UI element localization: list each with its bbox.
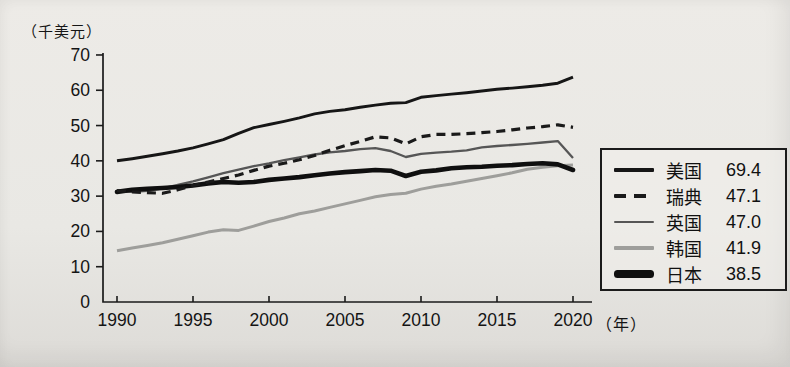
series-line-usa <box>117 77 573 161</box>
y-tick-label: 20 <box>71 221 91 241</box>
legend-label-korea: 韩国 <box>666 235 724 261</box>
legend-line-sample-japan <box>614 270 654 277</box>
y-tick-label: 50 <box>71 116 91 136</box>
y-tick-label: 40 <box>71 151 91 171</box>
x-tick-label: 2000 <box>250 310 289 330</box>
legend-row-japan: 日本38.5 <box>614 261 775 287</box>
legend-label-sweden: 瑞典 <box>666 183 724 209</box>
legend-row-usa: 美国69.4 <box>614 157 775 183</box>
legend: 美国69.4瑞典47.1英国47.0韩国41.9日本38.5 <box>600 148 787 291</box>
legend-line-sample-korea <box>614 246 654 250</box>
legend-line-sample-uk <box>614 221 654 224</box>
y-tick-label: 70 <box>71 45 91 65</box>
y-tick-label: 30 <box>71 186 91 206</box>
x-tick-label: 2020 <box>554 310 593 330</box>
x-tick-label: 2005 <box>326 310 365 330</box>
y-tick-label: 60 <box>71 80 91 100</box>
legend-value-usa: 69.4 <box>726 160 761 181</box>
x-tick-label: 1990 <box>98 310 137 330</box>
legend-row-korea: 韩国41.9 <box>614 235 775 261</box>
series-line-korea <box>117 165 573 251</box>
x-tick-label: 2010 <box>402 310 441 330</box>
legend-value-japan: 38.5 <box>726 264 761 285</box>
legend-label-japan: 日本 <box>666 261 724 287</box>
y-tick-label: 0 <box>80 292 90 312</box>
y-tick-label: 10 <box>71 257 91 277</box>
chart-page: （千美元） 0102030405060701990199520002005201… <box>0 0 790 367</box>
legend-value-uk: 47.0 <box>726 212 761 233</box>
legend-row-uk: 英国47.0 <box>614 209 775 235</box>
x-tick-label: 1995 <box>174 310 213 330</box>
series-line-japan <box>117 163 573 192</box>
legend-label-usa: 美国 <box>666 157 724 183</box>
legend-line-sample-usa <box>614 168 654 171</box>
legend-label-uk: 英国 <box>666 209 724 235</box>
axes <box>103 53 592 302</box>
x-tick-label: 2015 <box>478 310 517 330</box>
legend-value-korea: 41.9 <box>726 238 761 259</box>
x-axis-unit-label: （年） <box>596 311 647 335</box>
legend-row-sweden: 瑞典47.1 <box>614 183 775 209</box>
legend-value-sweden: 47.1 <box>726 186 761 207</box>
legend-line-sample-sweden <box>614 194 654 198</box>
